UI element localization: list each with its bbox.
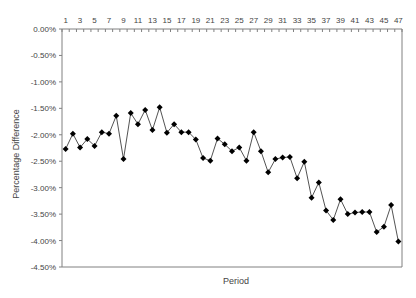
x-axis: 1357911131517192123252729313335373941434…	[62, 16, 403, 32]
y-tick-label: -2.00%	[31, 131, 56, 140]
chart-canvas: 1357911131517192123252729313335373941434…	[0, 0, 416, 298]
x-tick-label: 17	[177, 16, 186, 25]
diamond-marker-icon	[265, 169, 271, 175]
diamond-marker-icon	[272, 156, 278, 162]
diamond-marker-icon	[280, 155, 286, 161]
series-line	[66, 107, 399, 241]
diamond-marker-icon	[157, 104, 163, 110]
diamond-marker-icon	[106, 131, 112, 137]
y-tick-label: -3.50%	[31, 210, 56, 219]
x-tick-label: 37	[322, 16, 331, 25]
x-axis-title: Period	[223, 276, 249, 286]
x-tick-label: 9	[121, 16, 126, 25]
x-tick-label: 5	[92, 16, 97, 25]
diamond-marker-icon	[207, 158, 213, 164]
diamond-marker-icon	[135, 121, 141, 127]
diamond-marker-icon	[113, 113, 119, 119]
diamond-marker-icon	[251, 129, 257, 135]
x-tick-label: 45	[379, 16, 388, 25]
x-tick-label: 13	[148, 16, 157, 25]
diamond-marker-icon	[388, 202, 394, 208]
diamond-marker-icon	[258, 148, 264, 154]
diamond-marker-icon	[338, 196, 344, 202]
diamond-marker-icon	[63, 146, 69, 152]
x-tick-label: 41	[351, 16, 360, 25]
y-tick-label: 0.00%	[33, 25, 56, 34]
diamond-marker-icon	[352, 210, 358, 216]
diamond-marker-icon	[301, 159, 307, 165]
x-tick-label: 3	[78, 16, 83, 25]
x-tick-label: 19	[191, 16, 200, 25]
y-tick-label: -0.50%	[31, 51, 56, 60]
x-tick-label: 43	[365, 16, 374, 25]
diamond-marker-icon	[366, 209, 372, 215]
y-tick-label: -4.50%	[31, 263, 56, 272]
x-tick-label: 47	[394, 16, 403, 25]
x-tick-label: 29	[264, 16, 273, 25]
x-tick-label: 7	[107, 16, 112, 25]
diamond-marker-icon	[316, 179, 322, 185]
x-tick-label: 31	[278, 16, 287, 25]
y-axis-title: Percentage Difference	[11, 109, 21, 198]
x-tick-label: 23	[220, 16, 229, 25]
diamond-marker-icon	[287, 154, 293, 160]
x-tick-label: 1	[63, 16, 68, 25]
x-tick-label: 21	[206, 16, 215, 25]
plot-area	[62, 29, 402, 267]
x-tick-label: 33	[293, 16, 302, 25]
x-tick-label: 15	[162, 16, 171, 25]
x-tick-label: 35	[307, 16, 316, 25]
diamond-marker-icon	[99, 129, 105, 135]
diamond-marker-icon	[149, 127, 155, 133]
data-series	[63, 104, 402, 244]
diamond-marker-icon	[120, 156, 126, 162]
diamond-marker-icon	[70, 131, 76, 137]
diamond-marker-icon	[381, 224, 387, 230]
diamond-marker-icon	[128, 110, 134, 116]
diamond-marker-icon	[345, 211, 351, 217]
x-tick-label: 39	[336, 16, 345, 25]
diamond-marker-icon	[142, 107, 148, 113]
x-tick-label: 11	[134, 16, 143, 25]
line-chart: 1357911131517192123252729313335373941434…	[0, 0, 416, 298]
diamond-marker-icon	[309, 195, 315, 201]
x-tick-label: 27	[249, 16, 258, 25]
diamond-marker-icon	[236, 144, 242, 150]
diamond-marker-icon	[200, 155, 206, 161]
y-tick-label: -3.00%	[31, 184, 56, 193]
y-tick-label: -1.00%	[31, 78, 56, 87]
y-tick-label: -4.00%	[31, 237, 56, 246]
diamond-marker-icon	[243, 158, 249, 164]
y-tick-label: -2.50%	[31, 157, 56, 166]
diamond-marker-icon	[294, 175, 300, 181]
y-tick-label: -1.50%	[31, 104, 56, 113]
y-axis: 0.00%-0.50%-1.00%-1.50%-2.00%-2.50%-3.00…	[31, 25, 62, 272]
diamond-marker-icon	[374, 229, 380, 235]
diamond-marker-icon	[395, 239, 401, 245]
diamond-marker-icon	[359, 209, 365, 215]
x-tick-label: 25	[235, 16, 244, 25]
